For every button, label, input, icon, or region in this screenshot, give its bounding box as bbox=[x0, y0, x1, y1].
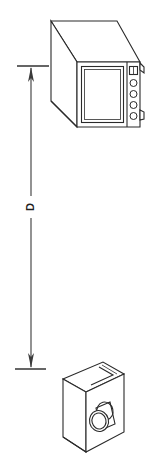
panel-knob-1[interactable] bbox=[130, 80, 137, 87]
display-screen-glass bbox=[86, 71, 119, 118]
dimension-annotation-group: D bbox=[15, 66, 49, 369]
technical-diagram-canvas: D bbox=[0, 0, 149, 469]
display-unit-tab-bottom bbox=[140, 110, 144, 120]
sensor-head-group bbox=[63, 362, 124, 452]
display-unit-tab-top bbox=[140, 63, 144, 73]
sensor-head-left-face bbox=[63, 379, 86, 452]
panel-knob-2[interactable] bbox=[130, 91, 137, 98]
display-unit-group bbox=[51, 21, 144, 127]
panel-knob-4[interactable] bbox=[130, 113, 137, 120]
dimension-label-d: D bbox=[24, 203, 36, 211]
panel-knob-3[interactable] bbox=[130, 102, 137, 109]
diagram-svg: D bbox=[0, 0, 149, 469]
